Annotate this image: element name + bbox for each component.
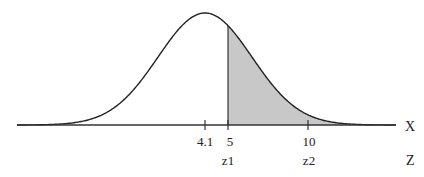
z2-label: z2 bbox=[303, 153, 315, 168]
shaded-area bbox=[228, 26, 396, 125]
normal-distribution-diagram: 4.1 5 10 z1 z2 X Z bbox=[0, 0, 424, 177]
x-axis-label: X bbox=[405, 119, 415, 134]
z-axis-label: Z bbox=[406, 153, 415, 168]
tick-label-10: 10 bbox=[303, 134, 316, 149]
z1-label: z1 bbox=[222, 153, 234, 168]
bell-curve bbox=[17, 13, 396, 125]
tick-label-5: 5 bbox=[227, 134, 234, 149]
tick-label-mean: 4.1 bbox=[197, 134, 213, 149]
